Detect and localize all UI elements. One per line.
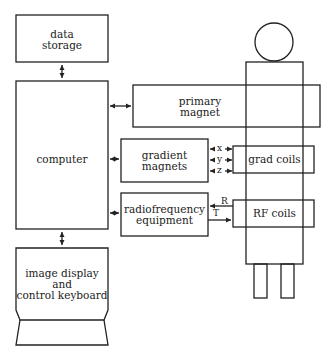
data-storage-label: data storage [16, 29, 108, 51]
diagram-canvas [0, 0, 329, 355]
patient-right-leg [281, 264, 294, 298]
patient-left-leg [254, 264, 267, 298]
grad-coils-label: grad coils [246, 154, 303, 165]
y-label: y [217, 155, 222, 164]
rf-equipment-label: radiofrequency equipment [116, 204, 213, 226]
x-label: x [217, 144, 222, 153]
primary-magnet-label: primary magnet [160, 96, 240, 118]
computer-label: computer [16, 154, 108, 165]
z-label: z [217, 166, 222, 175]
keyboard-base [16, 320, 108, 345]
patient-head [255, 23, 293, 61]
t-label: T [213, 209, 219, 218]
image-display-label: image display and control keyboard [16, 268, 108, 301]
rf-coils-label: RF coils [246, 208, 303, 219]
gradient-magnets-label: gradient magnets [121, 150, 208, 172]
r-label: R [221, 197, 228, 206]
